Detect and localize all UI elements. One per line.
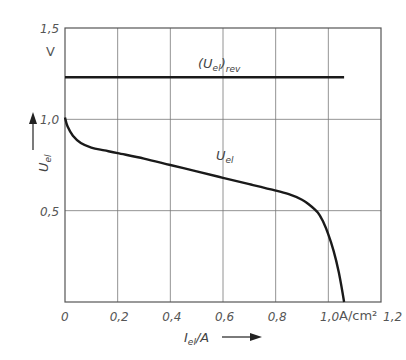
x-tick-label: 0,6 <box>215 310 234 324</box>
y-tick-label: 1,5 <box>40 22 59 36</box>
x-tick-label: 0,2 <box>110 310 129 324</box>
svg-text:Uel: Uel <box>36 154 53 172</box>
uel-series-label: Uel <box>216 148 234 165</box>
cell-voltage-curve <box>65 118 344 303</box>
x-tick-label: 0,8 <box>268 310 287 324</box>
x-tick-label: 1,2 <box>383 310 402 324</box>
x-tick-label: 1,0 <box>320 310 339 324</box>
polarization-chart: 00,20,40,60,81,21,0 0,51,01,5 V A/cm² Ue… <box>0 0 406 360</box>
x-axis-label: Iel/A <box>184 330 209 347</box>
y-tick-label: 0,5 <box>40 205 59 219</box>
y-unit-label: V <box>46 44 55 59</box>
y-axis-arrow-icon <box>29 112 37 150</box>
x-tick-label: 0,4 <box>162 310 181 324</box>
x-axis-arrow-icon <box>222 333 262 341</box>
x-tick-label: 0 <box>61 310 69 324</box>
y-tick-label: 1,0 <box>40 113 59 127</box>
y-axis-label: Uel <box>36 154 53 172</box>
x-unit-label: A/cm² <box>339 308 377 323</box>
rev-series-label: (Uel)rev <box>198 56 241 74</box>
